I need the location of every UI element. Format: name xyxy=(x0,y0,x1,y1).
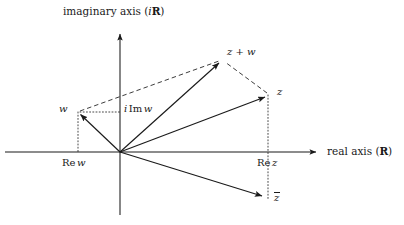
projection-label-re-z: Rez xyxy=(257,158,277,168)
vector-w xyxy=(81,115,121,153)
i-im-w-symbol: w xyxy=(144,103,153,114)
re-z-prefix: Re xyxy=(257,157,270,168)
imaginary-axis-label: imaginary axis (iR) xyxy=(63,6,164,17)
projection-label-i-im-w: iImw xyxy=(124,104,152,114)
dashed-edge-z-to-zplusw xyxy=(225,62,267,93)
real-axis-label-set: R xyxy=(380,145,389,157)
complex-plane-figure: imaginary axis (iR) real axis (R) w z z … xyxy=(0,0,404,225)
vector-label-z-plus-w: z + w xyxy=(227,47,256,57)
real-axis-label-suffix: ) xyxy=(388,145,392,157)
vector-z-conjugate xyxy=(120,152,262,196)
re-z-symbol: z xyxy=(272,157,277,168)
re-w-symbol: w xyxy=(77,157,86,168)
imaginary-axis-label-suffix: ) xyxy=(160,5,164,17)
real-axis-label-prefix: real axis ( xyxy=(327,145,380,157)
projection-label-re-w: Rew xyxy=(62,158,86,168)
imaginary-axis-label-prefix: imaginary axis ( xyxy=(63,5,148,17)
real-axis-label: real axis (R) xyxy=(327,146,392,157)
re-w-prefix: Re xyxy=(62,157,75,168)
z-conjugate-symbol: z xyxy=(274,193,279,203)
i-im-w-operator: Im xyxy=(129,103,142,114)
i-im-w-prefix: i xyxy=(124,103,127,114)
vector-label-z-conjugate: z xyxy=(274,193,279,203)
vector-label-z: z xyxy=(277,87,282,97)
imaginary-axis-label-set: R xyxy=(152,5,161,17)
vector-label-w: w xyxy=(59,104,68,114)
